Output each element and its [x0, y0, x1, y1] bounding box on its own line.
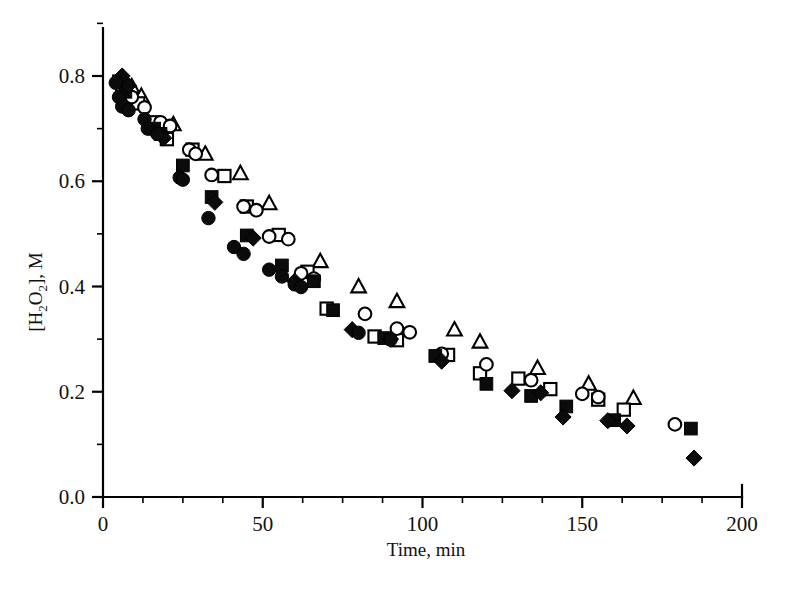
y-tick-label: 0.6 [59, 169, 85, 193]
data-point [176, 173, 189, 186]
data-point [250, 204, 263, 217]
data-point [218, 170, 230, 182]
scatter-plot-canvas: 050100150200 0.00.20.40.60.8 Time, min [… [0, 0, 786, 592]
y-tick-label: 0.0 [59, 485, 85, 509]
data-point [237, 247, 250, 260]
data-point [205, 169, 218, 182]
data-point [403, 326, 416, 339]
axis-ticks [92, 23, 742, 508]
axis-spines [103, 28, 742, 497]
series-open-triangle [124, 79, 640, 404]
data-point [530, 361, 545, 374]
y-axis-tick-labels: 0.00.20.40.60.8 [59, 64, 86, 509]
data-point [237, 200, 250, 213]
data-point [294, 280, 307, 293]
y-tick-label: 0.2 [59, 380, 85, 404]
chart-figure: 050100150200 0.00.20.40.60.8 Time, min [… [0, 0, 786, 592]
data-point [576, 388, 589, 401]
data-point [447, 322, 462, 335]
data-point [202, 211, 215, 224]
data-point [263, 230, 276, 243]
x-tick-label: 0 [98, 512, 109, 536]
data-point [473, 334, 488, 347]
y-tick-label: 0.8 [59, 64, 85, 88]
series-open-square [119, 91, 630, 416]
data-point [177, 159, 190, 172]
data-point [525, 374, 538, 387]
data-point [262, 263, 275, 276]
data-point [122, 104, 135, 117]
data-point [669, 418, 682, 431]
data-point [262, 196, 277, 209]
x-axis-title: Time, min [387, 539, 466, 560]
x-axis-tick-labels: 050100150200 [98, 512, 758, 536]
y-tick-label: 0.4 [59, 275, 86, 299]
data-point [313, 254, 328, 267]
data-point [685, 422, 698, 435]
x-tick-label: 50 [252, 512, 273, 536]
data-points [109, 68, 702, 466]
data-point [233, 166, 248, 179]
data-point [308, 275, 321, 288]
axes [103, 28, 742, 497]
data-point [592, 391, 605, 404]
data-point [282, 233, 295, 246]
data-point [359, 308, 372, 321]
data-point [512, 372, 524, 384]
data-point [327, 304, 340, 317]
data-point [351, 279, 366, 292]
x-tick-label: 200 [726, 512, 758, 536]
data-point [151, 127, 164, 140]
y-axis-title: [H2O2], M [25, 252, 50, 332]
data-point [189, 148, 202, 161]
data-point [619, 418, 635, 434]
x-tick-label: 100 [407, 512, 439, 536]
data-point [390, 294, 405, 307]
data-point [626, 391, 641, 404]
series-filled-diamond [114, 68, 702, 466]
series-open-circle [116, 83, 681, 431]
data-point [686, 450, 702, 466]
svg-text:[H2O2], M: [H2O2], M [25, 252, 50, 332]
series-filled-square [113, 75, 698, 435]
data-point [275, 270, 288, 283]
data-point [352, 326, 365, 339]
x-tick-label: 150 [567, 512, 599, 536]
data-point [480, 378, 493, 391]
data-point [384, 333, 397, 346]
data-point [480, 358, 493, 371]
data-point [109, 76, 122, 89]
